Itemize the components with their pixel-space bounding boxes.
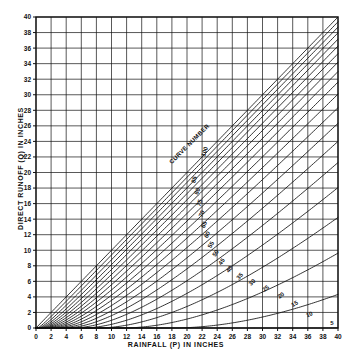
- y-tick-label: 18: [24, 184, 32, 191]
- y-tick-label: 24: [24, 138, 32, 145]
- x-tick-label: 8: [95, 333, 99, 340]
- chart-background: [0, 0, 352, 358]
- x-tick-label: 24: [214, 333, 222, 340]
- x-tick-label: 32: [274, 333, 282, 340]
- y-tick-label: 36: [24, 45, 32, 52]
- x-tick-label: 30: [259, 333, 267, 340]
- x-tick-label: 28: [244, 333, 252, 340]
- x-tick-label: 14: [138, 333, 146, 340]
- y-tick-label: 28: [24, 107, 32, 114]
- y-tick-label: 14: [24, 216, 32, 223]
- y-tick-label: 8: [27, 262, 31, 269]
- x-tick-label: 2: [49, 333, 53, 340]
- y-tick-label: 30: [24, 91, 32, 98]
- x-tick-label: 20: [183, 333, 191, 340]
- y-tick-label: 20: [24, 169, 32, 176]
- x-tick-label: 18: [168, 333, 176, 340]
- x-tick-label: 22: [198, 333, 206, 340]
- y-axis-title: DIRECT RUNOFF (Q) IN INCHES: [17, 69, 24, 269]
- y-tick-label: 32: [24, 76, 32, 83]
- runoff-curve-number-chart: 0246810121416182022242628303234363840024…: [0, 0, 352, 358]
- x-axis-title: RAINFALL (P) IN INCHES: [0, 341, 352, 348]
- x-tick-label: 4: [64, 333, 68, 340]
- y-tick-label: 22: [24, 153, 32, 160]
- y-tick-label: 26: [24, 122, 32, 129]
- y-tick-label: 40: [24, 13, 32, 20]
- y-tick-label: 2: [27, 309, 31, 316]
- x-tick-label: 34: [289, 333, 297, 340]
- y-tick-label: 6: [27, 278, 31, 285]
- y-tick-label: 34: [24, 60, 32, 67]
- x-tick-label: 16: [153, 333, 161, 340]
- y-tick-label: 4: [27, 293, 31, 300]
- x-tick-label: 38: [319, 333, 327, 340]
- y-tick-label: 16: [24, 200, 32, 207]
- y-tick-label: 12: [24, 231, 32, 238]
- y-tick-label: 0: [27, 324, 31, 331]
- x-tick-label: 26: [229, 333, 237, 340]
- x-tick-label: 40: [334, 333, 342, 340]
- x-tick-label: 36: [304, 333, 312, 340]
- chart-plot-area: 0246810121416182022242628303234363840024…: [0, 0, 352, 358]
- y-tick-label: 38: [24, 29, 32, 36]
- y-tick-label: 10: [24, 247, 32, 254]
- x-tick-label: 12: [123, 333, 131, 340]
- x-tick-label: 10: [108, 333, 116, 340]
- x-tick-label: 0: [34, 333, 38, 340]
- x-tick-label: 6: [79, 333, 83, 340]
